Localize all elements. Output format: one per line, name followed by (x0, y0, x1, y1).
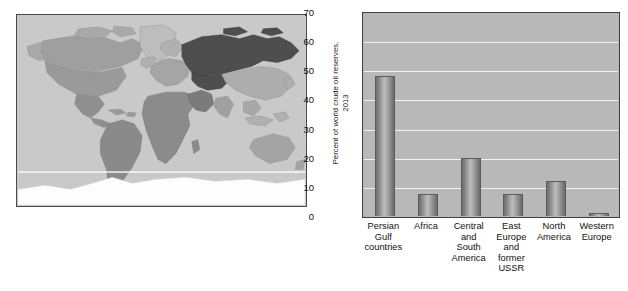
y-tick-label-10: 10 (288, 183, 314, 193)
plot-area (362, 12, 620, 218)
y-tick-label-60: 60 (288, 37, 314, 47)
bars-group (364, 14, 618, 216)
world-map-frame (16, 14, 307, 207)
world-map-image (17, 15, 306, 206)
bar[interactable] (589, 213, 609, 216)
bar[interactable] (418, 194, 438, 216)
bar[interactable] (546, 181, 566, 216)
bar[interactable] (461, 158, 481, 216)
x-axis-label: WesternEurope (571, 221, 622, 242)
bar-slot (407, 14, 450, 216)
y-tick-label-0: 0 (288, 212, 314, 222)
plot-wrapper: 010203040506070 (362, 12, 620, 218)
world-map-panel (16, 14, 307, 207)
y-axis-title-line2: 2013 (341, 23, 355, 183)
bar[interactable] (503, 194, 523, 216)
figure-root: Percent of world crude oil reserves, 201… (0, 0, 628, 291)
y-tick-label-70: 70 (288, 8, 314, 18)
bar[interactable] (375, 76, 395, 216)
y-tick-label-50: 50 (288, 66, 314, 76)
x-axis-labels: PersianGulfcountriesAfricaCentralandSout… (362, 221, 620, 291)
y-tick-label-40: 40 (288, 95, 314, 105)
bar-slot (535, 14, 578, 216)
bar-chart-panel: Percent of world crude oil reserves, 201… (318, 0, 628, 291)
bar-slot (364, 14, 407, 216)
bar-slot (492, 14, 535, 216)
bar-slot (577, 14, 620, 216)
bar-slot (449, 14, 492, 216)
y-tick-label-30: 30 (288, 125, 314, 135)
y-tick-label-20: 20 (288, 154, 314, 164)
